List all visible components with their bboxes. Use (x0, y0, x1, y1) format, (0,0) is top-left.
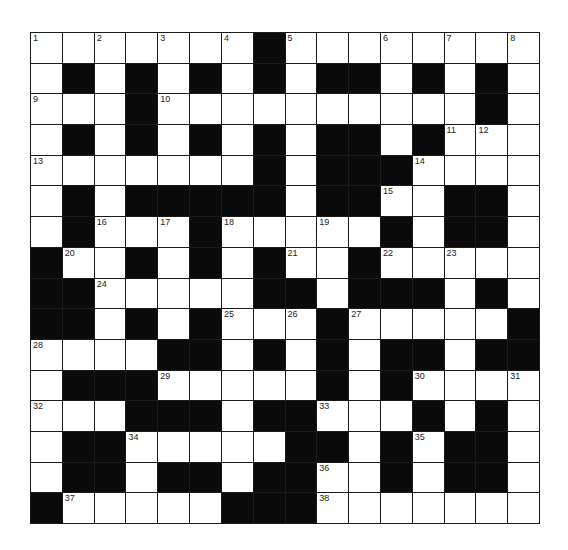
answer-cell[interactable] (190, 493, 221, 523)
answer-cell[interactable] (508, 217, 539, 247)
answer-cell[interactable] (254, 432, 285, 462)
answer-cell[interactable] (445, 401, 476, 431)
answer-cell[interactable] (476, 33, 507, 63)
answer-cell[interactable] (349, 340, 380, 370)
answer-cell[interactable] (126, 279, 157, 309)
answer-cell[interactable] (349, 33, 380, 63)
answer-cell[interactable] (508, 432, 539, 462)
answer-cell[interactable] (286, 94, 317, 124)
answer-cell[interactable] (190, 371, 221, 401)
answer-cell[interactable]: 16 (95, 217, 126, 247)
answer-cell[interactable] (222, 432, 253, 462)
answer-cell[interactable] (349, 401, 380, 431)
answer-cell[interactable] (31, 371, 62, 401)
answer-cell[interactable] (222, 94, 253, 124)
answer-cell[interactable] (349, 493, 380, 523)
answer-cell[interactable]: 5 (286, 33, 317, 63)
answer-cell[interactable] (31, 432, 62, 462)
answer-cell[interactable]: 31 (508, 371, 539, 401)
answer-cell[interactable]: 8 (508, 33, 539, 63)
answer-cell[interactable] (445, 340, 476, 370)
answer-cell[interactable] (126, 463, 157, 493)
answer-cell[interactable]: 6 (381, 33, 412, 63)
answer-cell[interactable]: 28 (31, 340, 62, 370)
answer-cell[interactable] (190, 156, 221, 186)
answer-cell[interactable] (158, 432, 189, 462)
answer-cell[interactable]: 27 (349, 309, 380, 339)
answer-cell[interactable]: 20 (63, 248, 94, 278)
answer-cell[interactable] (381, 64, 412, 94)
answer-cell[interactable]: 30 (413, 371, 444, 401)
answer-cell[interactable] (286, 371, 317, 401)
answer-cell[interactable] (476, 248, 507, 278)
answer-cell[interactable] (286, 340, 317, 370)
answer-cell[interactable] (413, 248, 444, 278)
answer-cell[interactable] (413, 309, 444, 339)
answer-cell[interactable] (190, 279, 221, 309)
answer-cell[interactable] (476, 156, 507, 186)
answer-cell[interactable] (63, 94, 94, 124)
answer-cell[interactable] (254, 309, 285, 339)
answer-cell[interactable]: 34 (126, 432, 157, 462)
answer-cell[interactable]: 32 (31, 401, 62, 431)
answer-cell[interactable] (63, 401, 94, 431)
answer-cell[interactable]: 25 (222, 309, 253, 339)
answer-cell[interactable] (126, 156, 157, 186)
answer-cell[interactable]: 26 (286, 309, 317, 339)
answer-cell[interactable] (126, 217, 157, 247)
answer-cell[interactable] (349, 463, 380, 493)
answer-cell[interactable] (413, 94, 444, 124)
answer-cell[interactable] (317, 94, 348, 124)
answer-cell[interactable] (445, 94, 476, 124)
answer-cell[interactable] (349, 94, 380, 124)
answer-cell[interactable]: 23 (445, 248, 476, 278)
answer-cell[interactable] (286, 156, 317, 186)
answer-cell[interactable] (158, 493, 189, 523)
answer-cell[interactable]: 37 (63, 493, 94, 523)
answer-cell[interactable] (286, 186, 317, 216)
answer-cell[interactable] (95, 125, 126, 155)
answer-cell[interactable] (126, 493, 157, 523)
answer-cell[interactable] (445, 309, 476, 339)
answer-cell[interactable] (158, 156, 189, 186)
answer-cell[interactable] (222, 156, 253, 186)
answer-cell[interactable] (190, 432, 221, 462)
answer-cell[interactable]: 4 (222, 33, 253, 63)
answer-cell[interactable] (254, 371, 285, 401)
answer-cell[interactable] (381, 309, 412, 339)
answer-cell[interactable]: 11 (445, 125, 476, 155)
answer-cell[interactable] (95, 401, 126, 431)
answer-cell[interactable] (317, 248, 348, 278)
answer-cell[interactable] (445, 279, 476, 309)
answer-cell[interactable] (413, 186, 444, 216)
answer-cell[interactable]: 10 (158, 94, 189, 124)
answer-cell[interactable] (254, 217, 285, 247)
answer-cell[interactable]: 35 (413, 432, 444, 462)
answer-cell[interactable] (222, 401, 253, 431)
answer-cell[interactable]: 17 (158, 217, 189, 247)
answer-cell[interactable] (508, 94, 539, 124)
answer-cell[interactable] (63, 33, 94, 63)
answer-cell[interactable] (381, 493, 412, 523)
answer-cell[interactable] (445, 156, 476, 186)
answer-cell[interactable] (31, 463, 62, 493)
answer-cell[interactable] (508, 279, 539, 309)
answer-cell[interactable]: 2 (95, 33, 126, 63)
answer-cell[interactable] (222, 463, 253, 493)
answer-cell[interactable]: 33 (317, 401, 348, 431)
answer-cell[interactable] (286, 64, 317, 94)
answer-cell[interactable] (222, 279, 253, 309)
answer-cell[interactable] (158, 279, 189, 309)
answer-cell[interactable] (286, 125, 317, 155)
answer-cell[interactable]: 29 (158, 371, 189, 401)
answer-cell[interactable] (31, 125, 62, 155)
answer-cell[interactable] (413, 33, 444, 63)
answer-cell[interactable]: 12 (476, 125, 507, 155)
answer-cell[interactable] (381, 125, 412, 155)
answer-cell[interactable] (381, 94, 412, 124)
answer-cell[interactable]: 24 (95, 279, 126, 309)
answer-cell[interactable] (445, 64, 476, 94)
answer-cell[interactable] (317, 279, 348, 309)
answer-cell[interactable] (126, 33, 157, 63)
answer-cell[interactable] (158, 309, 189, 339)
